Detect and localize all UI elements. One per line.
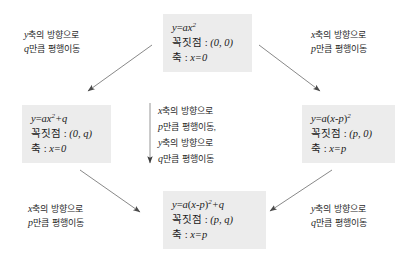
label-top-right-line1: x축의 방향으로 — [311, 28, 367, 42]
box-right: y=a(x-p)2 꼭짓점 : (p, 0) 축 : x=p — [302, 105, 395, 163]
box-right-axis: 축 : x=p — [311, 141, 386, 156]
arrow-left-to-bottom — [80, 170, 140, 212]
arrow-top-to-left — [88, 45, 152, 91]
label-text: 축의 방향으로 — [32, 204, 83, 214]
axis-label: 축 : — [31, 143, 47, 154]
axis-value: x=0 — [190, 52, 207, 63]
box-top: y=ax2 꼭짓점 : (0, 0) 축 : x=0 — [163, 14, 252, 72]
box-top-vertex: 꼭짓점 : (0, 0) — [172, 35, 243, 50]
eq-exp: 2 — [193, 21, 197, 29]
label-text: 만큼 평행이동 — [29, 44, 80, 54]
label-bottom-right-line1: y축의 방향으로 — [311, 202, 367, 216]
box-bottom: y=a(x-p)2+q 꼭짓점 : (p, q) 축 : x=p — [163, 191, 266, 249]
box-right-equation: y=a(x-p)2 — [311, 111, 386, 126]
label-text: 만큼 평행이동 — [316, 44, 367, 54]
label-bottom-right-line2: q만큼 평행이동 — [311, 216, 367, 230]
eq-tail: +q — [55, 113, 67, 124]
vertex-label: 꼭짓점 : — [172, 37, 208, 48]
eq-tail: +q — [212, 199, 224, 210]
vertex-label: 꼭짓점 : — [311, 128, 347, 139]
axis-label: 축 : — [172, 52, 188, 63]
box-bottom-axis: 축 : x=p — [172, 227, 257, 242]
box-top-axis: 축 : x=0 — [172, 50, 243, 65]
axis-value: x=p — [329, 143, 346, 154]
label-text: 축의 방향으로 — [315, 30, 366, 40]
box-top-equation: y=ax2 — [172, 20, 243, 35]
axis-value: x=p — [190, 229, 207, 240]
label-text: 만큼 평행이동, — [163, 122, 216, 132]
label-bottom-left-line2: p만큼 평행이동 — [28, 216, 84, 230]
box-left-axis: 축 : x=0 — [31, 141, 102, 156]
box-bottom-vertex: 꼭짓점 : (p, q) — [172, 212, 257, 227]
label-center-line3: y축의 방향으로 — [158, 135, 216, 151]
label-top-right-line2: p만큼 평행이동 — [311, 42, 367, 56]
eq-exp: 2 — [347, 112, 351, 120]
axis-label: 축 : — [311, 143, 327, 154]
label-text: 축의 방향으로 — [162, 106, 213, 116]
box-left-equation: y=ax2+q — [31, 111, 102, 126]
vertex-value: (p, q) — [210, 214, 233, 225]
label-text: 축의 방향으로 — [162, 138, 213, 148]
box-left: y=ax2+q 꼭짓점 : (0, q) 축 : x=0 — [22, 105, 111, 163]
label-top-left-line1: y축의 방향으로 — [24, 28, 80, 42]
box-left-vertex: 꼭짓점 : (0, q) — [31, 126, 102, 141]
label-text: 축의 방향으로 — [28, 30, 79, 40]
axis-value: x=0 — [49, 143, 66, 154]
vertex-value: (0, q) — [69, 128, 92, 139]
label-top-left-line2: q만큼 평행이동 — [24, 42, 80, 56]
label-text: 축의 방향으로 — [315, 204, 366, 214]
label-text: 만큼 평행이동 — [163, 154, 214, 164]
vertex-value: (0, 0) — [210, 37, 233, 48]
vertex-value: (p, 0) — [349, 128, 372, 139]
vertex-label: 꼭짓점 : — [172, 214, 208, 225]
label-bottom-right: y축의 방향으로 q만큼 평행이동 — [311, 202, 367, 230]
vertex-label: 꼭짓점 : — [31, 128, 67, 139]
diagram-canvas: y=ax2 꼭짓점 : (0, 0) 축 : x=0 y=ax2+q 꼭짓점 :… — [0, 0, 407, 258]
label-text: 만큼 평행이동 — [316, 218, 367, 228]
box-right-vertex: 꼭짓점 : (p, 0) — [311, 126, 386, 141]
label-center-line1: x축의 방향으로 — [158, 103, 216, 119]
label-top-left: y축의 방향으로 q만큼 평행이동 — [24, 28, 80, 56]
label-bottom-left-line1: x축의 방향으로 — [28, 202, 84, 216]
box-bottom-equation: y=a(x-p)2+q — [172, 197, 257, 212]
label-text: 만큼 평행이동 — [33, 218, 84, 228]
axis-label: 축 : — [172, 229, 188, 240]
label-center-line4: q만큼 평행이동 — [158, 151, 216, 167]
label-center-line2: p만큼 평행이동, — [158, 119, 216, 135]
label-top-right: x축의 방향으로 p만큼 평행이동 — [311, 28, 367, 56]
label-bottom-left: x축의 방향으로 p만큼 평행이동 — [28, 202, 84, 230]
label-center: x축의 방향으로 p만큼 평행이동, y축의 방향으로 q만큼 평행이동 — [158, 103, 216, 167]
